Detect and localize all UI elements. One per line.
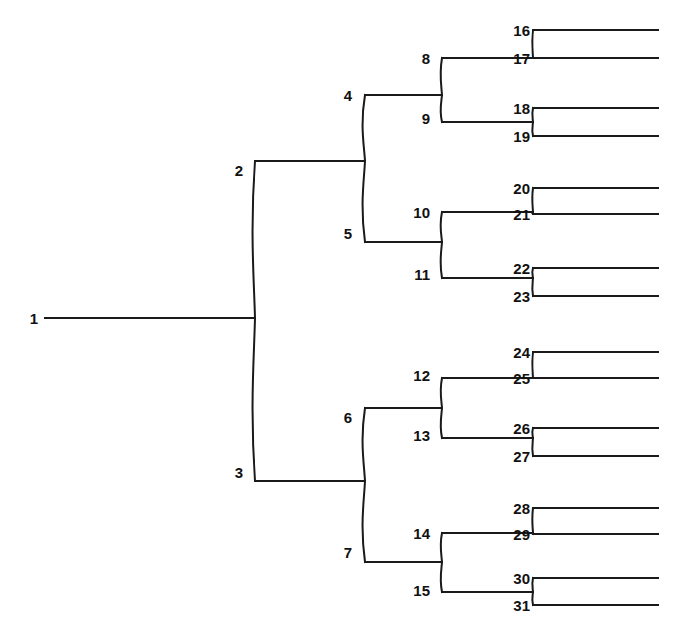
node-label-4: 4 [344, 88, 352, 103]
edge-bracket-3 [255, 408, 366, 562]
edge-bracket-2 [255, 95, 366, 242]
leaf-label-24: 24 [513, 345, 530, 360]
leaf-label-16: 16 [513, 23, 530, 38]
leaf-label-17: 17 [513, 51, 530, 66]
node-label-12: 12 [413, 368, 430, 383]
leaf-label-30: 30 [513, 571, 530, 586]
node-label-13: 13 [413, 428, 430, 443]
node-label-11: 11 [414, 267, 430, 282]
edge-bracket-1 [45, 161, 256, 481]
leaf-label-26: 26 [513, 421, 530, 436]
tree-diagram-canvas: 123456789101112131415 161718192021222324… [0, 0, 680, 644]
leaf-label-22: 22 [513, 261, 530, 276]
leaf-label-20: 20 [513, 181, 530, 196]
edge-bracket-7 [365, 533, 443, 592]
node-label-7: 7 [344, 545, 352, 560]
node-label-10: 10 [413, 205, 430, 220]
edge-group [45, 30, 534, 605]
node-label-2: 2 [235, 163, 243, 178]
leaf-label-19: 19 [513, 129, 530, 144]
node-label-1: 1 [30, 311, 38, 326]
tree-edges-svg [0, 0, 680, 644]
node-label-15: 15 [413, 583, 430, 598]
leaf-label-27: 27 [513, 449, 530, 464]
node-label-9: 9 [422, 111, 430, 126]
leaf-label-25: 25 [513, 371, 530, 386]
node-label-3: 3 [235, 465, 243, 480]
leaf-label-28: 28 [513, 501, 530, 516]
node-label-14: 14 [413, 526, 430, 541]
node-label-6: 6 [344, 410, 352, 425]
node-label-5: 5 [344, 226, 352, 241]
leaf-label-31: 31 [513, 598, 530, 613]
edge-bracket-5 [365, 212, 443, 278]
leaf-label-18: 18 [513, 101, 530, 116]
leaf-label-29: 29 [513, 527, 530, 542]
leaf-line-group [533, 30, 658, 605]
edge-bracket-6 [365, 378, 443, 438]
leaf-label-23: 23 [513, 289, 530, 304]
edge-bracket-4 [365, 58, 443, 122]
leaf-label-21: 21 [513, 207, 530, 222]
node-label-8: 8 [422, 51, 430, 66]
